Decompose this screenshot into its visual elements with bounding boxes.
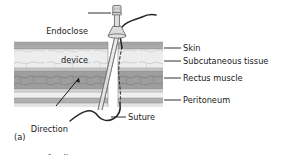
label-direction-line2: of pull — [14, 154, 68, 155]
tissue-block-right — [118, 42, 163, 107]
label-endoclose-line1: Endoclose — [22, 27, 88, 37]
layer-subcutaneous-right — [118, 49, 163, 68]
device-hub-rim — [108, 34, 126, 38]
figure-caption: (a) — [14, 132, 25, 142]
label-suture: Suture — [128, 113, 155, 123]
layer-subband-left — [14, 92, 108, 98]
label-skin: Skin — [183, 44, 200, 54]
label-endoclose-line2: device — [22, 56, 88, 66]
figure-endoclose-abdominal-wall: Skin Subcutaneous tissue Rectus muscle P… — [0, 0, 288, 155]
layer-skin-right — [118, 42, 163, 49]
layer-fascia-upper-right — [118, 68, 163, 71]
label-peritoneum: Peritoneum — [183, 96, 230, 106]
label-direction-of-pull: Direction of pull — [14, 106, 68, 155]
layer-cavity-right — [118, 103, 163, 107]
layer-fascia-lower-right — [118, 89, 163, 92]
layer-fascia-lower-left — [14, 89, 108, 92]
layer-peritoneum-right — [118, 98, 163, 103]
device-stem — [114, 14, 119, 27]
label-rectus-muscle: Rectus muscle — [183, 74, 243, 84]
layer-rectus-right — [118, 71, 163, 89]
label-subcutaneous-tissue: Subcutaneous tissue — [183, 57, 268, 67]
label-endoclose-device: Endoclose device — [22, 8, 88, 85]
layer-subband-right — [118, 92, 163, 98]
